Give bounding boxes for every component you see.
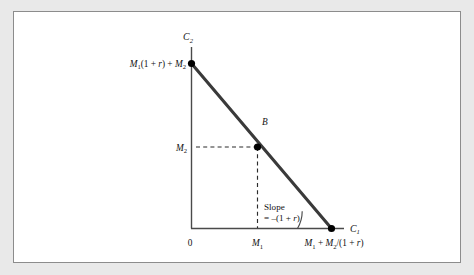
origin-label: 0 — [188, 238, 193, 248]
point-y-intercept — [188, 60, 195, 67]
budget-constraint-line — [192, 64, 332, 229]
vertical-axis-label: C2 — [183, 31, 194, 44]
figure-frame: C2 C1 0 M1(1 + r) + M2 M2 M1 M1 + M2/(1 … — [13, 11, 461, 263]
slope-label-line1: Slope — [264, 202, 285, 212]
x-tick-label-m1: M1 — [251, 238, 263, 250]
horizontal-axis-label: C1 — [350, 223, 360, 236]
y-intercept-label: M1(1 + r) + M2 — [129, 59, 186, 71]
point-x-intercept — [328, 225, 335, 232]
budget-line-label: B — [262, 117, 268, 127]
y-tick-label-m2: M2 — [175, 143, 187, 155]
point-b — [254, 143, 261, 150]
x-intercept-label: M1 + M2/(1 + r) — [304, 238, 364, 250]
plot-area: C2 C1 0 M1(1 + r) + M2 M2 M1 M1 + M2/(1 … — [14, 12, 462, 264]
slope-label-line2: = –(1 + r) — [264, 213, 300, 223]
